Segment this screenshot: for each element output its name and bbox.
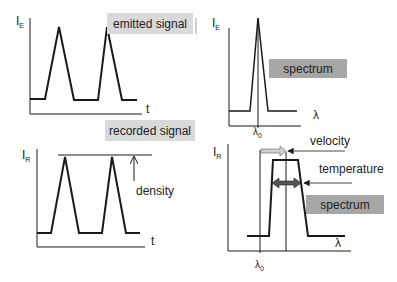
emitted-spectrum-x-label: λ <box>313 108 319 122</box>
emitted-x-label: t <box>146 102 149 116</box>
density-label: density <box>136 184 174 198</box>
emitted-y-label: IE <box>16 14 24 29</box>
recorded-signal-caption: recorded signal <box>105 120 195 141</box>
decorative-bar <box>195 18 197 34</box>
emitted-spectrum-caption: spectrum <box>269 59 347 78</box>
recorded-x-label: t <box>151 234 154 248</box>
temperature-label: temperature <box>319 162 384 176</box>
recorded-lambda0-tick: λ0 <box>255 259 264 272</box>
recorded-y-label: IR <box>22 148 30 163</box>
emitted-spectrum-y-label: IE <box>212 16 220 31</box>
recorded-spectrum-y-label: IR <box>213 145 221 160</box>
signal-curve <box>30 27 137 100</box>
recorded-spectrum-caption: spectrum <box>306 195 384 214</box>
emitted-lambda0-tick: λ0 <box>253 126 262 139</box>
velocity-shift-arrow <box>261 146 286 156</box>
emitted-signal-caption: emitted signal <box>107 13 193 34</box>
recorded-spectrum-x-label: λ <box>335 236 341 250</box>
signal-curve <box>37 157 140 233</box>
velocity-label: velocity <box>310 134 350 148</box>
recorded-signal-plot <box>37 149 152 247</box>
